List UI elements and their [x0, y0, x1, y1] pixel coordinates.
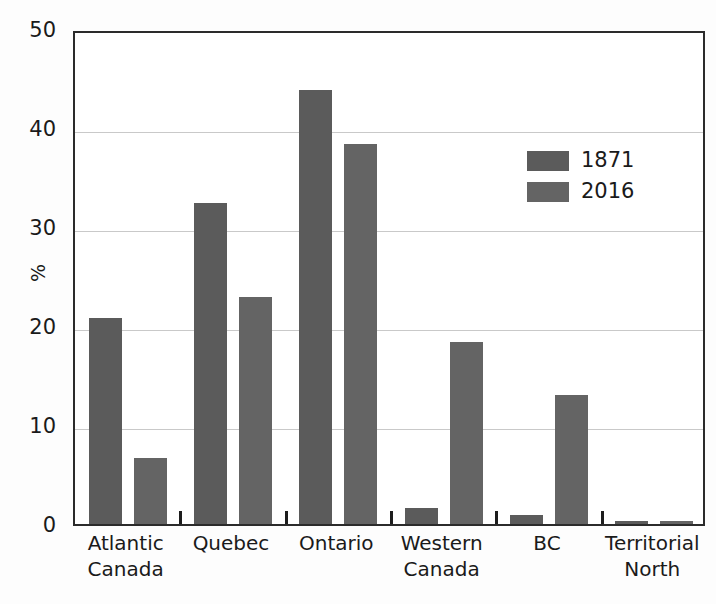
bar-chart-figure: % 01020304050 18712016 AtlanticCanadaQue… [0, 0, 716, 604]
legend: 18712016 [527, 150, 634, 202]
y-tick-label: 50 [14, 20, 56, 41]
bar-1871-quebec [194, 203, 227, 524]
y-tick-label: 40 [14, 119, 56, 140]
bar-2016-western-canada [450, 342, 483, 524]
x-label-line: Territorial [605, 531, 699, 555]
bar-1871-western-canada [405, 508, 438, 524]
x-label-ontario: Ontario [284, 530, 389, 556]
x-label-line: Ontario [299, 531, 374, 555]
bar-2016-quebec [239, 297, 272, 524]
x-label-line: BC [533, 531, 560, 555]
bar-2016-bc [555, 395, 588, 524]
legend-swatch-1871 [527, 151, 569, 171]
bars-layer [75, 33, 703, 524]
x-axis-tick [390, 511, 393, 524]
x-label-line: Quebec [193, 531, 270, 555]
bar-1871-territorial-north [615, 521, 648, 524]
y-tick-label: 20 [14, 317, 56, 338]
x-label-quebec: Quebec [178, 530, 283, 556]
legend-entry-1871: 1871 [527, 150, 634, 171]
legend-swatch-2016 [527, 182, 569, 202]
legend-label-2016: 2016 [581, 181, 634, 202]
x-label-line: Western [401, 531, 483, 555]
x-label-line: Canada [73, 556, 178, 582]
x-label-line: Atlantic [88, 531, 164, 555]
x-label-line: North [600, 556, 705, 582]
bar-1871-atlantic-canada [89, 318, 122, 524]
bar-2016-territorial-north [660, 521, 693, 524]
x-label-bc: BC [494, 530, 599, 556]
legend-entry-2016: 2016 [527, 181, 634, 202]
plot-area: 18712016 [73, 31, 705, 526]
y-tick-label: 0 [14, 515, 56, 536]
bar-1871-ontario [299, 90, 332, 524]
y-axis-tick-labels: 01020304050 [14, 0, 56, 604]
y-tick-label: 10 [14, 416, 56, 437]
x-axis-tick [495, 511, 498, 524]
legend-label-1871: 1871 [581, 150, 634, 171]
x-axis-category-labels: AtlanticCanadaQuebecOntarioWesternCanada… [73, 530, 705, 604]
x-label-atlantic-canada: AtlanticCanada [73, 530, 178, 582]
x-axis-tick [285, 511, 288, 524]
x-label-line: Canada [389, 556, 494, 582]
x-axis-tick [601, 511, 604, 524]
x-label-territorial-north: TerritorialNorth [600, 530, 705, 582]
x-axis-tick [179, 511, 182, 524]
bar-2016-atlantic-canada [134, 458, 167, 524]
x-label-western-canada: WesternCanada [389, 530, 494, 582]
bar-2016-ontario [344, 144, 377, 524]
y-tick-label: 30 [14, 218, 56, 239]
bar-1871-bc [510, 515, 543, 524]
